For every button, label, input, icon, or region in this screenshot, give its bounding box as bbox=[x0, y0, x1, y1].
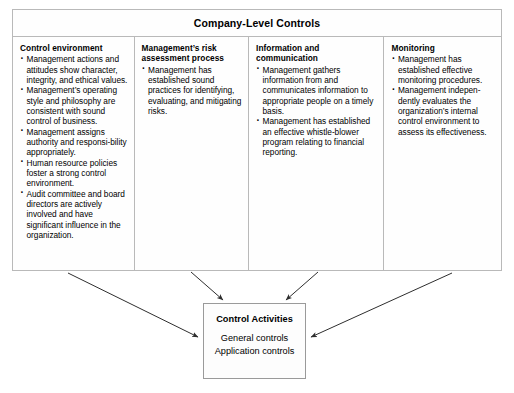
column-title: Control environment bbox=[20, 43, 128, 53]
column-bullet-list: Management has established sound practic… bbox=[142, 65, 243, 117]
control-activities-title: Control Activities bbox=[204, 313, 305, 325]
column-title: Management’s risk assessment process bbox=[142, 43, 243, 64]
list-item: Management indepen-dently evaluates the … bbox=[391, 85, 495, 137]
page-title: Company-Level Controls bbox=[194, 17, 320, 29]
column-title: Monitoring bbox=[391, 43, 495, 53]
arrow-control-environment-to-activities bbox=[68, 273, 198, 337]
list-item: Management has established an effective … bbox=[256, 116, 377, 157]
column-bullet-list: Management gathers information from and … bbox=[256, 65, 377, 158]
column-control-environment: Control environment Management actions a… bbox=[13, 37, 135, 270]
list-item: Management has established effective mon… bbox=[391, 54, 495, 85]
company-level-controls-matrix: Company-Level Controls Control environme… bbox=[12, 9, 502, 271]
company-level-controls-diagram: Company-Level Controls Control environme… bbox=[0, 0, 514, 393]
list-item: Management assigns authority and respons… bbox=[20, 127, 128, 158]
matrix-header: Company-Level Controls bbox=[13, 10, 501, 37]
column-bullet-list: Management actions and attitudes show ch… bbox=[20, 54, 128, 240]
column-title: Information and communication bbox=[256, 43, 377, 64]
column-monitoring: Monitoring Management has established ef… bbox=[384, 37, 501, 270]
arrow-risk-assessment-to-activities bbox=[191, 272, 223, 300]
list-item: Management has established sound practic… bbox=[142, 65, 243, 117]
arrow-monitoring-to-activities bbox=[311, 273, 452, 337]
list-item: Audit committee and board directors are … bbox=[20, 189, 128, 241]
column-risk-assessment-process: Management’s risk assessment process Man… bbox=[135, 37, 250, 270]
control-activities-box: Control Activities General controls Appl… bbox=[203, 303, 306, 379]
list-item: Management’s operating style and philoso… bbox=[20, 85, 128, 126]
list-item: Management actions and attitudes show ch… bbox=[20, 54, 128, 85]
column-information-and-communication: Information and communication Management… bbox=[249, 37, 384, 270]
list-item: Management gathers information from and … bbox=[256, 65, 377, 117]
list-item: Human resource policies foster a strong … bbox=[20, 158, 128, 189]
arrow-information-communication-to-activities bbox=[286, 272, 318, 300]
control-activities-line-application: Application controls bbox=[204, 345, 305, 358]
column-bullet-list: Management has established effective mon… bbox=[391, 54, 495, 137]
matrix-columns: Control environment Management actions a… bbox=[13, 37, 501, 270]
control-activities-line-general: General controls bbox=[204, 332, 305, 345]
